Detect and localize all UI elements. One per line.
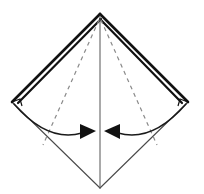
origami-illustration [0,0,204,194]
origami-diagram [0,0,204,194]
